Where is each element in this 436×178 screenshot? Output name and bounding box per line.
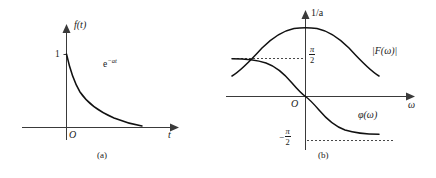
- panel-b-magnitude-label: |F(ω)|: [372, 46, 397, 56]
- panel-a-exponential-decay: f(t) t O 1 e−at (a): [0, 0, 218, 178]
- panel-b-lower-value-label: − π 2: [279, 127, 291, 146]
- panel-b-upper-value-numerator: π: [309, 45, 315, 55]
- panel-b-y-axis-label-text: 1/a: [311, 7, 323, 18]
- panel-b-phase-label: φ(ω): [358, 110, 377, 120]
- panel-a-plot: [0, 0, 218, 178]
- panel-b-y-axis-label: 1/a: [311, 8, 323, 18]
- panel-b-upper-value-denominator: 2: [310, 55, 314, 64]
- panel-b-lower-value-numerator: π: [285, 127, 291, 137]
- figure-root: f(t) t O 1 e−at (a) 1: [0, 0, 436, 178]
- panel-b-lower-value-denominator: 2: [286, 137, 290, 146]
- panel-a-x-axis-label: t: [168, 130, 171, 140]
- panel-b-caption: (b): [318, 150, 329, 160]
- panel-b-origin-label: O: [291, 99, 298, 109]
- panel-a-x-axis-arrow: [170, 124, 179, 132]
- panel-b-lower-value-fraction: π 2: [285, 127, 291, 146]
- panel-a-curve-label: e−at: [103, 60, 117, 70]
- panel-a-y-axis-arrow: [63, 24, 71, 33]
- panel-b-upper-value-label: π 2: [309, 45, 315, 64]
- panel-a-y-axis-label: f(t): [74, 20, 86, 30]
- panel-b-y-axis-arrow: [302, 10, 310, 19]
- panel-b-lower-value-sign: −: [279, 132, 284, 142]
- panel-a-origin-label: O: [69, 130, 76, 140]
- panel-a-curve-label-exponent: −at: [107, 57, 117, 64]
- panel-a-caption: (a): [97, 150, 107, 160]
- panel-a-unit-tick-label: 1: [55, 50, 60, 60]
- panel-b-spectrum: 1/a ω O π 2 − π 2 |F(ω)| φ(ω) (b): [218, 0, 436, 178]
- panel-b-x-axis-label: ω: [408, 100, 415, 110]
